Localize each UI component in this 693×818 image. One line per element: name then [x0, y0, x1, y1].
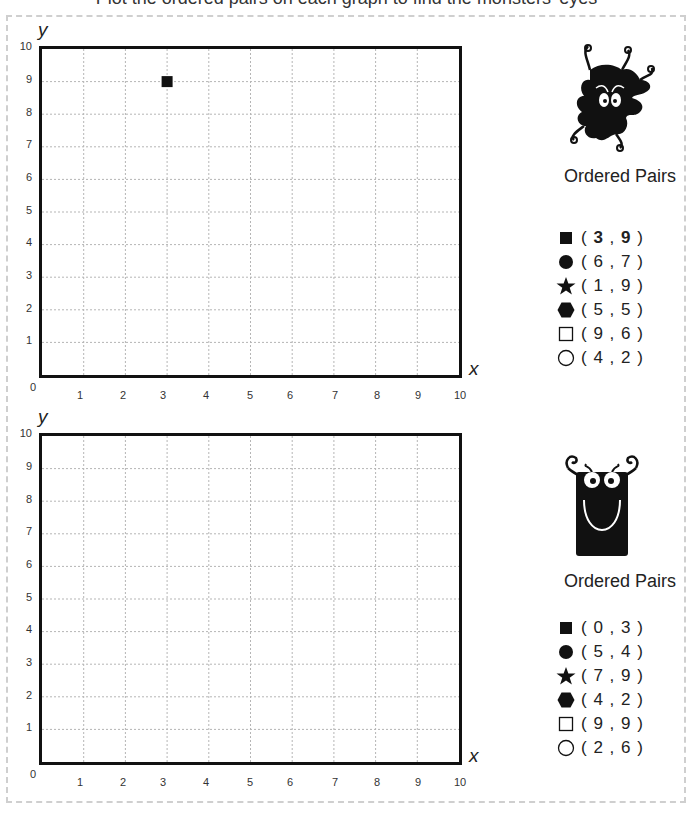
pair-text: ( 7 , 9 ) — [581, 666, 644, 686]
filled-circle-icon — [555, 252, 577, 272]
x-tick-9: 9 — [408, 776, 428, 788]
y-axis-label: y — [38, 406, 48, 428]
pair-row: ( 2 , 6 ) — [555, 736, 685, 760]
pair-row: ( 5 , 5 ) — [555, 298, 685, 322]
instruction-text: Plot the ordered pairs on each graph to … — [0, 0, 693, 9]
blob-monster-icon — [560, 40, 660, 155]
x-tick-8: 8 — [367, 389, 387, 401]
x-tick-3: 3 — [153, 389, 173, 401]
y-tick-3: 3 — [12, 656, 32, 668]
pair-row: ( 6 , 7 ) — [555, 250, 685, 274]
x-tick-10: 10 — [450, 776, 470, 788]
y-tick-9: 9 — [12, 73, 32, 85]
y-tick-2: 2 — [12, 689, 32, 701]
x-tick-1: 1 — [70, 776, 90, 788]
x-tick-9: 9 — [408, 389, 428, 401]
x-tick-4: 4 — [196, 389, 216, 401]
x-axis-label: x — [469, 745, 479, 767]
y-tick-4: 4 — [12, 623, 32, 635]
y-tick-5: 5 — [12, 204, 32, 216]
pair-text: ( 4 , 2 ) — [581, 348, 644, 368]
filled-square-icon — [555, 618, 577, 638]
x-tick-5: 5 — [240, 776, 260, 788]
y-tick-7: 7 — [12, 138, 32, 150]
y-tick-10: 10 — [12, 40, 32, 52]
x-tick-7: 7 — [325, 776, 345, 788]
open-circle-icon — [555, 738, 577, 758]
filled-star-icon — [555, 276, 577, 296]
pair-row: ( 5 , 4 ) — [555, 640, 685, 664]
rectangle-monster-icon — [562, 450, 642, 560]
pair-text: ( 9 , 9 ) — [581, 714, 644, 734]
origin-label: 0 — [16, 768, 36, 780]
filled-hexagon-icon — [555, 300, 577, 320]
pair-text: ( 1 , 9 ) — [581, 276, 644, 296]
open-square-icon — [555, 324, 577, 344]
x-axis-label: x — [469, 358, 479, 380]
ordered-pairs-list-2: ( 0 , 3 ) ( 5 , 4 ) ( 7 , 9 ) ( 4 , 2 ) … — [555, 616, 685, 760]
pair-row: ( 3 , 9 ) — [555, 226, 685, 250]
y-tick-1: 1 — [12, 334, 32, 346]
pair-row: ( 9 , 9 ) — [555, 712, 685, 736]
pair-row: ( 7 , 9 ) — [555, 664, 685, 688]
x-tick-2: 2 — [113, 389, 133, 401]
coordinate-grid-2[interactable] — [39, 433, 462, 765]
y-tick-10: 10 — [12, 427, 32, 439]
pair-row: ( 1 , 9 ) — [555, 274, 685, 298]
pair-text: ( 3 , 9 ) — [581, 228, 644, 248]
x-tick-6: 6 — [280, 776, 300, 788]
pair-text: ( 5 , 5 ) — [581, 300, 644, 320]
y-tick-7: 7 — [12, 525, 32, 537]
y-tick-2: 2 — [12, 302, 32, 314]
plotted-point-square — [162, 76, 173, 87]
x-tick-2: 2 — [113, 776, 133, 788]
y-tick-6: 6 — [12, 558, 32, 570]
y-tick-8: 8 — [12, 493, 32, 505]
open-circle-icon — [555, 348, 577, 368]
pair-row: ( 0 , 3 ) — [555, 616, 685, 640]
ordered-pairs-title-2: Ordered Pairs — [545, 571, 693, 592]
x-tick-6: 6 — [280, 389, 300, 401]
y-tick-9: 9 — [12, 460, 32, 472]
pair-text: ( 4 , 2 ) — [581, 690, 644, 710]
x-tick-3: 3 — [153, 776, 173, 788]
pair-text: ( 6 , 7 ) — [581, 252, 644, 272]
pair-row: ( 4 , 2 ) — [555, 688, 685, 712]
pair-text: ( 5 , 4 ) — [581, 642, 644, 662]
y-tick-3: 3 — [12, 269, 32, 281]
y-tick-8: 8 — [12, 106, 32, 118]
ordered-pairs-title-1: Ordered Pairs — [545, 166, 693, 187]
x-tick-8: 8 — [367, 776, 387, 788]
pair-text: ( 2 , 6 ) — [581, 738, 644, 758]
y-tick-6: 6 — [12, 171, 32, 183]
x-tick-5: 5 — [240, 389, 260, 401]
pair-text: ( 0 , 3 ) — [581, 618, 644, 638]
filled-hexagon-icon — [555, 690, 577, 710]
filled-square-icon — [555, 228, 577, 248]
filled-star-icon — [555, 666, 577, 686]
y-tick-4: 4 — [12, 236, 32, 248]
open-square-icon — [555, 714, 577, 734]
y-tick-1: 1 — [12, 721, 32, 733]
y-axis-label: y — [38, 19, 48, 41]
y-tick-5: 5 — [12, 591, 32, 603]
ordered-pairs-list-1: ( 3 , 9 ) ( 6 , 7 ) ( 1 , 9 ) ( 5 , 5 ) … — [555, 226, 685, 370]
pair-row: ( 4 , 2 ) — [555, 346, 685, 370]
x-tick-10: 10 — [450, 389, 470, 401]
origin-label: 0 — [16, 381, 36, 393]
grid-lines — [42, 49, 459, 375]
pair-text: ( 9 , 6 ) — [581, 324, 644, 344]
filled-circle-icon — [555, 642, 577, 662]
x-tick-1: 1 — [70, 389, 90, 401]
x-tick-7: 7 — [325, 389, 345, 401]
pair-row: ( 9 , 6 ) — [555, 322, 685, 346]
grid-lines — [42, 436, 459, 762]
coordinate-grid-1[interactable] — [39, 46, 462, 378]
x-tick-4: 4 — [196, 776, 216, 788]
